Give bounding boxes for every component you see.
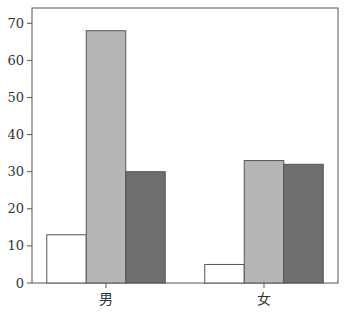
y-tick-label: 70 (7, 16, 24, 31)
x-tick-label: 男 (99, 291, 113, 307)
y-tick-label: 40 (7, 127, 24, 142)
x-tick-label: 女 (257, 291, 271, 307)
bar (86, 31, 126, 283)
y-tick-label: 60 (7, 53, 24, 68)
bar (205, 264, 245, 283)
bar (244, 161, 284, 283)
bar (126, 172, 166, 283)
y-tick-label: 20 (7, 201, 24, 216)
y-tick-label: 0 (16, 276, 24, 291)
chart-canvas: 010203040506070男女 (0, 0, 345, 319)
bar (284, 164, 324, 283)
y-tick-label: 10 (7, 238, 24, 253)
y-tick-label: 30 (7, 164, 24, 179)
bar-chart: 010203040506070男女 (0, 0, 345, 319)
bar (47, 235, 87, 283)
y-tick-label: 50 (7, 90, 24, 105)
